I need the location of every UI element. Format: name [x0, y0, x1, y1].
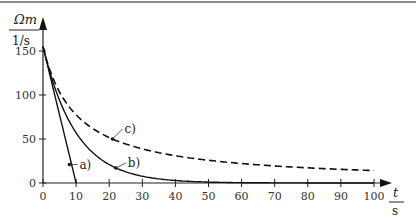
- annotations: a)b)c): [68, 122, 141, 172]
- annotation-dot: [114, 166, 118, 170]
- annotation-label: c): [125, 122, 136, 136]
- x-tick-label: 100: [364, 190, 385, 203]
- x-tick-label: 90: [334, 190, 348, 203]
- curves: [43, 47, 374, 183]
- annotation-label: a): [79, 158, 91, 172]
- x-tick-label: 0: [40, 190, 47, 203]
- x-axis-label: t s: [389, 185, 404, 218]
- series-b: [43, 47, 374, 183]
- x-axis-arrow-icon: [380, 179, 392, 187]
- y-tick-label: 50: [22, 133, 36, 146]
- x-tick-label: 20: [102, 190, 116, 203]
- x-tick-label: 10: [69, 190, 83, 203]
- x-label-denominator: s: [392, 204, 398, 218]
- x-tick-label: 80: [301, 190, 315, 203]
- x-tick-label: 60: [235, 190, 249, 203]
- y-label-numerator: Ωm: [13, 12, 37, 27]
- y-tick-label: 100: [15, 89, 36, 102]
- annotation-label: b): [128, 156, 140, 170]
- y-tick-label: 0: [29, 177, 36, 190]
- y-label-denominator: 1/s: [12, 34, 30, 48]
- x-tick-label: 70: [268, 190, 282, 203]
- x-tick-label: 30: [135, 190, 149, 203]
- x-tick-label: 40: [168, 190, 182, 203]
- x-label-numerator: t: [393, 185, 399, 200]
- y-axis-label: Ωm 1/s: [9, 12, 39, 48]
- y-axis-arrow-icon: [39, 17, 47, 30]
- x-tick-label: 50: [202, 190, 216, 203]
- chart: 0102030405060708090100050100150 a)b)c) Ω…: [0, 0, 416, 222]
